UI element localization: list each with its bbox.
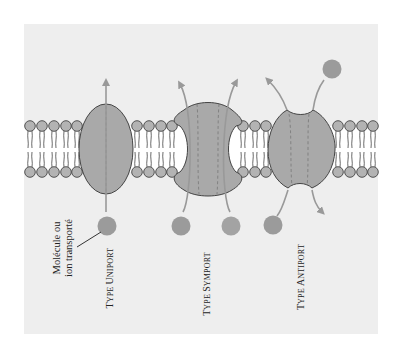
symport-molecule-2	[222, 217, 241, 236]
symport-molecule-1	[172, 217, 191, 236]
antiport-arrow-in-top	[313, 80, 324, 110]
antiport-transporter	[264, 60, 342, 235]
uniport-transporter	[79, 82, 133, 236]
antiport-arrow-in	[312, 190, 322, 212]
label-antiport: TYPE ANTIPORT	[295, 244, 306, 310]
svg-text:TYPE SYMPORT: TYPE SYMPORT	[201, 252, 212, 316]
antiport-molecule-bottom	[264, 216, 283, 235]
antiport-arrow-out	[268, 80, 287, 110]
antiport-arrow-out-bottom	[277, 190, 288, 216]
svg-text:TYPE UNIPORT: TYPE UNIPORT	[104, 248, 115, 309]
svg-text:Molécule ou: Molécule ou	[51, 221, 62, 275]
label-symport: TYPE SYMPORT	[201, 252, 212, 316]
antiport-molecule-top	[323, 60, 342, 79]
callout-label: Molécule ou ion transporté	[51, 219, 74, 277]
label-uniport: TYPE UNIPORT	[104, 248, 115, 309]
membrane-transport-diagram: Molécule ou ion transporté TYPE UNIPORT …	[0, 0, 393, 348]
callout-leader-line	[77, 232, 101, 247]
svg-text:ion transporté: ion transporté	[63, 219, 74, 277]
svg-text:TYPE ANTIPORT: TYPE ANTIPORT	[295, 244, 306, 310]
